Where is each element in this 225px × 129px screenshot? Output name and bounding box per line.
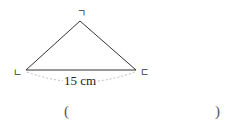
vertex-label-left: ㄴ [13, 68, 22, 78]
vertex-label-top: ㄱ [77, 9, 86, 19]
vertex-label-right: ㄷ [140, 68, 149, 78]
base-length-label: 15 cm [63, 74, 97, 87]
triangle-shape [26, 21, 136, 70]
answer-open-paren: ( [64, 104, 69, 119]
answer-blank[interactable] [74, 104, 212, 120]
answer-close-paren: ) [215, 104, 220, 119]
